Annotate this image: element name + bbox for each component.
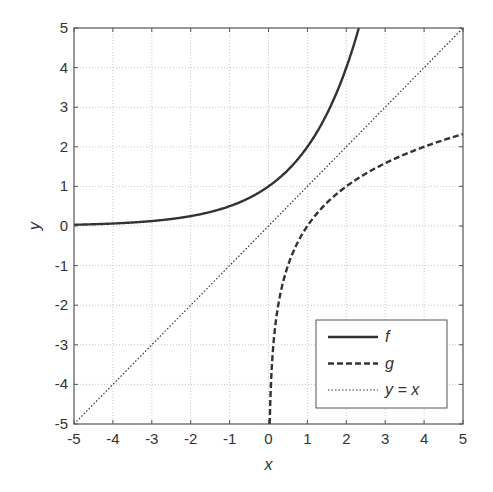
x-tick-label: 2: [342, 430, 350, 447]
x-axis-label: x: [264, 456, 274, 473]
y-tick-label: 5: [60, 19, 68, 36]
y-axis-label: y: [26, 221, 43, 231]
x-tick-label: 5: [459, 430, 467, 447]
y-tick-label: -5: [55, 415, 68, 432]
y-tick-label: 0: [60, 217, 68, 234]
legend-label: g: [385, 355, 394, 372]
x-tick-label: -5: [67, 430, 80, 447]
x-tick-label: -1: [223, 430, 236, 447]
x-tick-label: -3: [145, 430, 158, 447]
x-tick-label: 0: [264, 430, 272, 447]
y-tick-label: -4: [55, 375, 68, 392]
x-tick-label: 3: [381, 430, 389, 447]
legend: f g y = x: [316, 320, 447, 408]
y-tick-label: 4: [60, 59, 68, 76]
y-tick-label: -3: [55, 336, 68, 353]
x-tick-label: 4: [420, 430, 428, 447]
legend-box: [316, 320, 447, 408]
x-tick-label: 1: [303, 430, 311, 447]
y-tick-label: 1: [60, 177, 68, 194]
y-tick-label: -2: [55, 296, 68, 313]
y-tick-label: 3: [60, 98, 68, 115]
y-tick-label: 2: [60, 138, 68, 155]
chart: -5-4-3-2-1012345-5-4-3-2-1012345 x y f g…: [0, 0, 493, 492]
x-tick-label: -4: [106, 430, 119, 447]
y-tick-label: -1: [55, 257, 68, 274]
legend-label: y = x: [384, 381, 420, 398]
x-tick-label: -2: [184, 430, 197, 447]
